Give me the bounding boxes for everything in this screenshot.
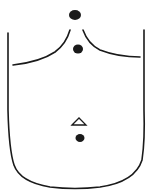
right-shoulder-curve: [83, 30, 140, 57]
navel-dot: [76, 134, 85, 142]
sternal-notch-dot: [73, 45, 83, 54]
left-shoulder-curve: [13, 30, 70, 65]
torso-diagram: [0, 0, 152, 196]
top-dot: [69, 10, 81, 20]
left-torso-outline: [8, 30, 144, 189]
triangle-marker-icon: [72, 118, 86, 125]
